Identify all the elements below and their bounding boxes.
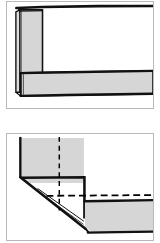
unmitered-corner-drawing [7,2,153,108]
figure-panel-bottom [6,133,154,241]
diagonal-inner-fold-line [38,188,84,221]
lower-hem-band [85,200,153,232]
miter-point-edge [85,229,88,233]
horizontal-dashed-stitch [46,195,153,196]
diagonal-miter-fold [20,177,85,229]
mitered-corner-drawing [7,134,153,240]
lower-hem-band-bottom-edge [88,232,153,233]
top-fabric-edge-line [16,6,153,8]
lower-hem-band-top-edge [84,200,153,201]
figure-panel-top [6,1,154,109]
vertical-hem-band [19,10,43,77]
vertical-band-fold-flap [16,10,20,92]
horizontal-hem-band [21,71,153,97]
stepped-fabric-edge [21,177,84,218]
figure-page [0,0,160,243]
